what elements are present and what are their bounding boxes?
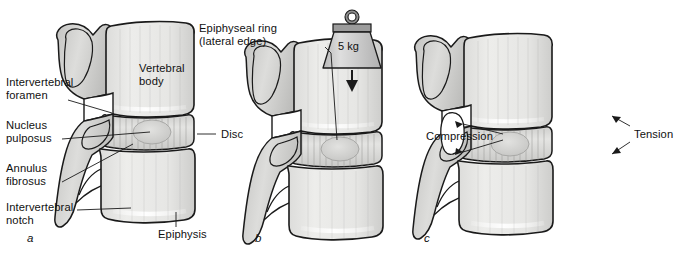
label-annulus-fibrosus: Annulusfibrosus <box>6 162 47 187</box>
panel-a-drawing <box>55 22 216 227</box>
label-intervertebral-notch: Intervertebralnotch <box>6 201 73 226</box>
label-epiphyseal-ring: Epiphyseal ring(lateral edge) <box>199 22 277 47</box>
label-compression: Compression <box>426 130 493 143</box>
tension-leaders <box>612 116 630 154</box>
label-tension: Tension <box>634 128 673 141</box>
panel-b-drawing <box>243 39 383 244</box>
figure-root: Intervertebralforamen Nucleuspulposus An… <box>0 0 675 256</box>
label-epiphysis: Epiphysis <box>158 228 207 241</box>
label-nucleus-pulposus: Nucleuspulposus <box>6 119 52 144</box>
label-disc: Disc <box>221 128 243 141</box>
label-intervertebral-foramen: Intervertebralforamen <box>6 76 73 101</box>
label-vertebral-body: Vertebralbody <box>139 62 185 87</box>
panel-letter-b: b <box>255 232 261 244</box>
panel-letter-a: a <box>27 232 33 244</box>
illustration-svg <box>0 0 675 256</box>
tension-arrowheads <box>612 116 621 154</box>
label-weight-value: 5 kg <box>338 40 359 52</box>
panel-letter-c: c <box>424 232 430 244</box>
